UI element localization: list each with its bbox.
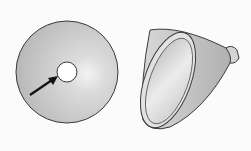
diagram-canvas: [0, 0, 251, 151]
cone-reflector: [129, 25, 239, 135]
disc: [16, 21, 118, 123]
disc-center-hole: [57, 62, 77, 82]
diagram-svg: [0, 0, 251, 151]
